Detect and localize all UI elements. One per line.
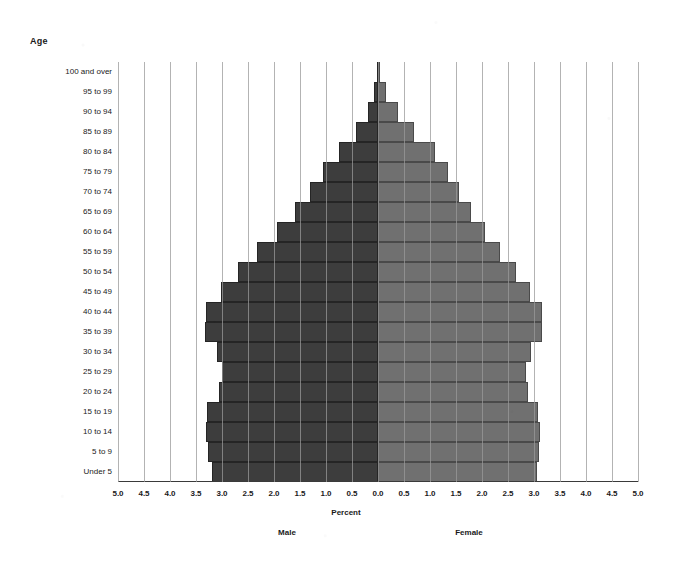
x-axis-tick-label: 4.5 (606, 489, 617, 498)
x-axis-tick-labels: 5.04.54.03.53.02.52.01.51.00.50.00.51.01… (0, 489, 692, 503)
gridline (274, 62, 275, 482)
y-axis-tick-labels: Under 55 to 910 to 1415 to 1920 to 2425 … (0, 62, 112, 482)
gridline (404, 62, 405, 482)
y-axis-tick-label: 55 to 59 (83, 248, 112, 256)
bar-female (378, 402, 538, 422)
y-axis-tick-label: 40 to 44 (83, 308, 112, 316)
gridline (378, 62, 379, 482)
population-pyramid-chart: Age Under 55 to 910 to 1415 to 1920 to 2… (0, 0, 692, 564)
gridline (248, 62, 249, 482)
y-axis-tick-label: 5 to 9 (92, 448, 112, 456)
gridline (482, 62, 483, 482)
legend-label-male: Male (278, 528, 296, 537)
gridline (196, 62, 197, 482)
x-axis-tick-label: 0.5 (398, 489, 409, 498)
y-axis-tick-label: 25 to 29 (83, 368, 112, 376)
x-axis-tick-label: 3.0 (216, 489, 227, 498)
bar-female (378, 422, 540, 442)
y-axis-tick-label: 30 to 34 (83, 348, 112, 356)
y-axis-tick-label: 75 to 79 (83, 168, 112, 176)
bar-male (310, 182, 378, 202)
y-axis-tick-label: 60 to 64 (83, 228, 112, 236)
gridline (456, 62, 457, 482)
bar-female (378, 162, 448, 182)
bar-female (378, 222, 485, 242)
x-axis-tick-label: 2.0 (476, 489, 487, 498)
bar-female (378, 322, 542, 342)
y-axis-tick-label: 35 to 39 (83, 328, 112, 336)
bar-female (378, 462, 537, 482)
bar-female (378, 142, 435, 162)
gridline (534, 62, 535, 482)
bar-female (378, 82, 386, 102)
bar-male (217, 342, 378, 362)
x-axis-tick-label: 0.5 (346, 489, 357, 498)
bar-female (378, 262, 516, 282)
y-axis-tick-label: 10 to 14 (83, 428, 112, 436)
bar-male (257, 242, 378, 262)
x-axis-tick-label: 5.0 (112, 489, 123, 498)
x-axis-tick-label: 4.0 (580, 489, 591, 498)
x-axis-tick-label: 1.0 (424, 489, 435, 498)
plot-area (118, 62, 638, 482)
x-axis-tick-label: 2.5 (242, 489, 253, 498)
y-axis-tick-label: 65 to 69 (83, 208, 112, 216)
gridline (638, 62, 639, 482)
x-axis-tick-label: 3.0 (528, 489, 539, 498)
bar-male (295, 202, 378, 222)
bar-male (212, 462, 378, 482)
x-axis-tick-label: 1.0 (320, 489, 331, 498)
gridline (222, 62, 223, 482)
y-axis-tick-label: Under 5 (84, 468, 112, 476)
gridline (612, 62, 613, 482)
gridline (326, 62, 327, 482)
gridline (430, 62, 431, 482)
x-axis-tick-label: 4.5 (138, 489, 149, 498)
x-axis-tick-label: 2.5 (502, 489, 513, 498)
bar-male (219, 382, 378, 402)
x-axis-tick-label: 5.0 (632, 489, 643, 498)
gridline (560, 62, 561, 482)
gridline (352, 62, 353, 482)
x-axis-title: Percent (0, 508, 692, 517)
x-axis-tick-label: 1.5 (450, 489, 461, 498)
bar-male (368, 102, 378, 122)
gridline (144, 62, 145, 482)
bar-male (323, 162, 378, 182)
legend-label-female: Female (455, 528, 483, 537)
y-axis-tick-label: 85 to 89 (83, 128, 112, 136)
y-axis-tick-label: 20 to 24 (83, 388, 112, 396)
y-axis-tick-label: 45 to 49 (83, 288, 112, 296)
gridline (300, 62, 301, 482)
y-axis-tick-label: 95 to 99 (83, 88, 112, 96)
y-axis-tick-label: 70 to 74 (83, 188, 112, 196)
bar-male (238, 262, 378, 282)
x-axis-tick-label: 2.0 (268, 489, 279, 498)
bar-male (277, 222, 378, 242)
gridline (170, 62, 171, 482)
bar-female (378, 442, 539, 462)
gridline (586, 62, 587, 482)
y-axis-tick-label: 80 to 84 (83, 148, 112, 156)
gridline (508, 62, 509, 482)
bar-male (339, 142, 378, 162)
x-axis-tick-label: 3.5 (554, 489, 565, 498)
x-axis-tick-label: 4.0 (164, 489, 175, 498)
y-axis-tick-label: 50 to 54 (83, 268, 112, 276)
bar-female (378, 122, 414, 142)
y-axis-tick-label: 90 to 94 (83, 108, 112, 116)
bar-female (378, 182, 459, 202)
bar-female (378, 102, 398, 122)
bar-female (378, 302, 542, 322)
x-axis-tick-label: 0.0 (372, 489, 383, 498)
y-axis-tick-label: 100 and over (65, 68, 112, 76)
y-axis-title: Age (30, 36, 48, 46)
bar-female (378, 382, 528, 402)
bar-female (378, 362, 526, 382)
bar-male (356, 122, 378, 142)
y-axis-tick-label: 15 to 19 (83, 408, 112, 416)
x-axis-tick-label: 3.5 (190, 489, 201, 498)
x-axis-tick-label: 1.5 (294, 489, 305, 498)
gridline (118, 62, 119, 482)
